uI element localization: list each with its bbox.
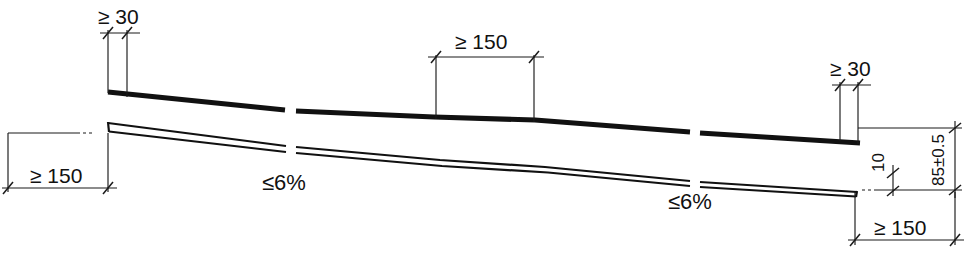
dimension-bottom-right-min-150: ≥ 150: [848, 192, 964, 246]
dimension-top-left-min-30: ≥ 30: [98, 5, 140, 97]
kerb-top-edge-segment-left: [108, 92, 285, 110]
slab-bottom-surface-right: [700, 187, 856, 197]
slope-annotation-left: ≤6%: [262, 170, 306, 195]
slab-right-end-cap: [856, 191, 857, 197]
kerb-top-edge-segment-right: [700, 133, 860, 143]
slab-left-end-cap: [108, 122, 109, 132]
dimension-left-min-150: ≥ 150: [2, 133, 117, 194]
slab-top-surface-right: [700, 182, 857, 192]
technical-drawing-canvas: ≥ 30 ≥ 150 ≥ 30 ≥ 150 ≥ 150: [0, 0, 974, 254]
dimension-label-middle-min-150: ≥ 150: [455, 30, 507, 53]
kerb-top-edge-segment-middle: [296, 111, 690, 132]
slab-top-surface-middle: [296, 147, 690, 181]
dimension-label-top-right-min-30: ≥ 30: [830, 57, 871, 80]
dimension-label-right-height-85: 85±0.5: [929, 134, 948, 186]
dimension-label-right-thickness-10: 10: [869, 153, 888, 172]
slope-annotation-right: ≤6%: [668, 189, 712, 214]
dimension-label-left-min-150: ≥ 150: [30, 164, 82, 187]
kerb-top-edge-group: [108, 92, 860, 143]
slab-bottom-surface-middle: [296, 153, 690, 186]
dimension-top-right-min-30: ≥ 30: [830, 57, 871, 144]
dimension-middle-min-150: ≥ 150: [428, 30, 544, 122]
dimension-label-bottom-right-min-150: ≥ 150: [874, 216, 926, 239]
dimension-label-top-left-min-30: ≥ 30: [98, 5, 139, 28]
